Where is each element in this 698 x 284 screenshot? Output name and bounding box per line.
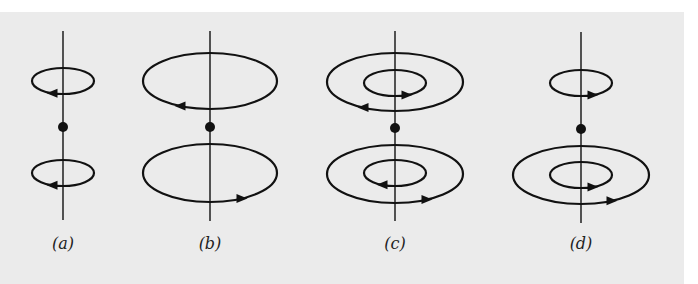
arrow-right-icon (588, 182, 599, 191)
arrow-left-icon (377, 180, 388, 189)
subfigure-c (327, 31, 463, 221)
arrow-right-icon (237, 194, 248, 203)
arrow-left-icon (175, 102, 186, 111)
subfigure-label-c: (c) (384, 234, 405, 253)
subfigure-d (513, 32, 649, 223)
arrow-left-icon (47, 181, 58, 190)
center-dot (390, 123, 400, 133)
center-dot (58, 122, 68, 132)
current-loop-diagram: (a) (b) (c) (d) (0, 0, 698, 284)
subfigure-label-d: (d) (570, 234, 593, 253)
arrow-right-icon (422, 195, 433, 204)
subfigure-b (143, 31, 277, 221)
subfigure-a (32, 31, 94, 220)
subfigure-label-a: (a) (52, 234, 74, 253)
arrow-left-icon (47, 89, 58, 98)
center-dot (576, 124, 586, 134)
arrow-right-icon (607, 196, 618, 205)
arrow-right-icon (588, 90, 599, 99)
center-dot (205, 122, 215, 132)
arrow-left-icon (358, 103, 369, 112)
arrow-right-icon (402, 90, 413, 99)
subfigure-label-b: (b) (199, 234, 222, 253)
